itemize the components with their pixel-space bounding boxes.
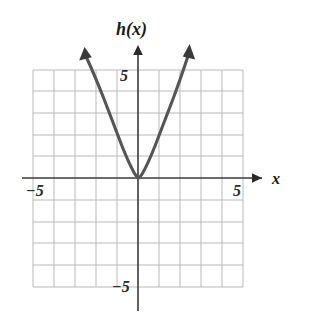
curve-left-arrow-icon bbox=[79, 47, 92, 61]
coordinate-plane-svg: h(x) x −5 5 5 −5 bbox=[0, 0, 309, 315]
x-tick-negative-five: −5 bbox=[26, 182, 44, 199]
y-tick-negative-five: −5 bbox=[112, 278, 130, 295]
x-axis-arrow-icon bbox=[252, 173, 262, 183]
x-axis-label: x bbox=[271, 170, 280, 187]
y-tick-positive-five: 5 bbox=[120, 67, 128, 84]
curve-right-arrow-icon bbox=[183, 44, 195, 59]
graph-figure: h(x) x −5 5 5 −5 bbox=[0, 0, 309, 315]
y-axis-arrow-icon bbox=[133, 45, 143, 55]
x-tick-positive-five: 5 bbox=[233, 182, 241, 199]
function-label: h(x) bbox=[116, 19, 147, 40]
